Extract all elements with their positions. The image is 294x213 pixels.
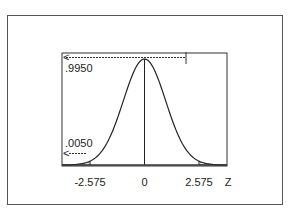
normal-distribution-chart: < .9950 .0050 < -2.57502.575 Z — [0, 0, 294, 213]
x-axis-label: Z — [225, 176, 232, 188]
x-tick-label: -2.575 — [74, 176, 105, 188]
annotation-upper: .9950 — [65, 62, 93, 74]
lower-arrow-head: < — [63, 147, 69, 159]
vertical-lines — [90, 59, 199, 165]
x-tick-label: 2.575 — [185, 176, 213, 188]
x-tick-label: 0 — [141, 176, 147, 188]
x-tick-labels: -2.57502.575 — [74, 176, 212, 188]
